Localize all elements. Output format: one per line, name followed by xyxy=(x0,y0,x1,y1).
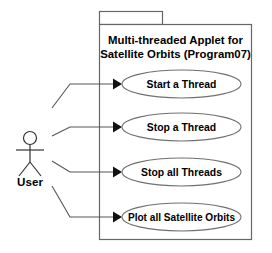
actor-leg-right xyxy=(30,162,41,176)
use-case-label-stop-a-thread: Stop a Thread xyxy=(147,122,216,133)
actor-leg-left xyxy=(19,162,30,176)
system-title-line-2: Satellite Orbits (Program07) xyxy=(100,48,251,60)
use-case-label-plot-all-satellite-orbits: Plot all Satellite Orbits xyxy=(128,212,236,223)
system-title-line-1: Multi-threaded Applet for xyxy=(108,34,244,46)
actor-head-icon xyxy=(24,132,37,145)
system-boundary-tab xyxy=(100,12,163,25)
use-case-label-start-a-thread: Start a Thread xyxy=(147,79,217,90)
use-case-diagram-canvas: Multi-threaded Applet for Satellite Orbi… xyxy=(0,0,272,253)
actor-user[interactable] xyxy=(16,132,44,177)
use-case-label-stop-all-threads: Stop all Threads xyxy=(141,167,222,178)
actor-label-user: User xyxy=(17,175,43,188)
diagram-svg: Multi-threaded Applet for Satellite Orbi… xyxy=(0,0,272,253)
